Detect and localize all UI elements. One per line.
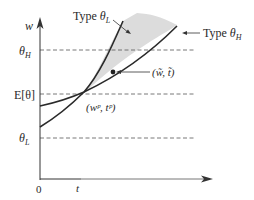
- deviation-point: [111, 70, 116, 75]
- t-axis-label: t: [76, 182, 80, 194]
- e-theta-label: E[θ]: [14, 88, 35, 102]
- theta-l-label: θL: [19, 131, 30, 147]
- type-h-arrow-icon: [182, 31, 187, 35]
- shaded-region: [81, 13, 177, 96]
- deviation-point-label: (w̃, t̃): [152, 66, 175, 79]
- theta-h-label: θH: [19, 44, 32, 60]
- pooling-point-label: (wᵖ, tᵖ): [86, 101, 116, 114]
- signaling-diagram: w 0 t θH E[θ] θL Type θL Type θH (wᵖ, tᵖ…: [0, 0, 254, 200]
- type-theta-l-label: Type θL: [73, 9, 111, 25]
- type-theta-h-label: Type θH: [203, 26, 243, 42]
- y-axis-label: w: [25, 19, 33, 33]
- origin-label: 0: [36, 183, 42, 195]
